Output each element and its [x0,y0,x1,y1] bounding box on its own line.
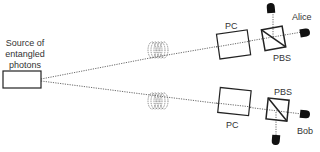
detector-bob-reflected-icon [271,135,280,146]
detector-bob-transmitted-icon [300,110,311,119]
pbs-alice-label: PBS [273,53,291,63]
pc-alice-label: PC [225,21,238,31]
alice-label: Alice [292,12,312,22]
source-label-line-1: Source of [0,38,50,49]
pc-bob-label: PC [226,120,239,130]
source-label: Source of entangled photons [0,38,50,71]
diagram-canvas [0,0,320,152]
source-box [3,71,41,88]
source-label-line-3: photons [0,60,50,71]
photon-path-bob [41,81,302,136]
source-label-line-2: entangled [0,49,50,60]
photon-path-alice [41,14,302,79]
pbs-bob-label: PBS [274,87,292,97]
detector-alice-transmitted-icon [299,28,310,38]
detector-alice-reflected-icon [266,3,275,14]
bob-label: Bob [297,126,313,136]
pc-alice-box [216,30,250,59]
pbs-alice-icon [261,26,285,50]
entanglement-setup-diagram: Source of entangled photons PC PBS Alice… [0,0,320,152]
pc-bob-box [218,87,251,115]
